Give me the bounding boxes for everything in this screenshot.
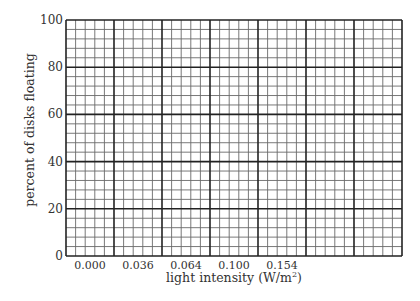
graph-grid — [0, 0, 420, 301]
x-axis-label-end: ) — [297, 270, 302, 285]
x-axis-label-main: light intensity (W/m — [166, 270, 292, 285]
y-tick-label-100: 100 — [23, 14, 63, 26]
chart-area: 0 20 40 60 80 100 0.000 0.036 0.064 0.10… — [0, 0, 420, 301]
major-grid-lines — [66, 20, 402, 256]
minor-grid-lines — [66, 20, 402, 256]
y-axis-label: percent of disks floating — [22, 53, 37, 207]
x-axis-label: light intensity (W/m2) — [66, 270, 402, 285]
y-tick-label-0: 0 — [23, 250, 63, 262]
